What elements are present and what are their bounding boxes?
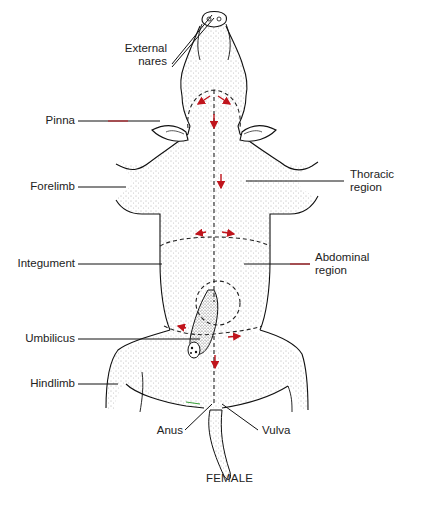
pinna-left bbox=[152, 126, 188, 142]
label-umbilicus: Umbilicus bbox=[25, 332, 75, 345]
label-thoracic-line2: region bbox=[350, 181, 394, 194]
label-forelimb: Forelimb bbox=[30, 180, 75, 193]
label-thoracic-line1: Thoracic bbox=[350, 168, 394, 181]
pinna-right bbox=[240, 126, 276, 142]
label-external-nares-line1: External bbox=[125, 42, 167, 55]
label-abdominal-line2: region bbox=[315, 264, 369, 277]
body-outline bbox=[106, 12, 318, 413]
label-hindlimb: Hindlimb bbox=[30, 377, 75, 390]
figure-caption: FEMALE bbox=[206, 472, 253, 484]
label-abdominal-line1: Abdominal bbox=[315, 251, 369, 264]
label-abdominal-region: Abdominal region bbox=[315, 251, 369, 277]
label-anus: Anus bbox=[157, 424, 183, 437]
label-external-nares: External nares bbox=[125, 42, 167, 68]
label-integument: Integument bbox=[17, 257, 75, 270]
tail bbox=[209, 410, 231, 479]
label-pinna: Pinna bbox=[46, 114, 75, 127]
label-external-nares-line2: nares bbox=[125, 55, 167, 68]
fetal-pig-diagram: External nares Pinna Forelimb Thoracic r… bbox=[0, 0, 424, 509]
label-vulva: Vulva bbox=[262, 424, 290, 437]
label-thoracic-region: Thoracic region bbox=[350, 168, 394, 194]
